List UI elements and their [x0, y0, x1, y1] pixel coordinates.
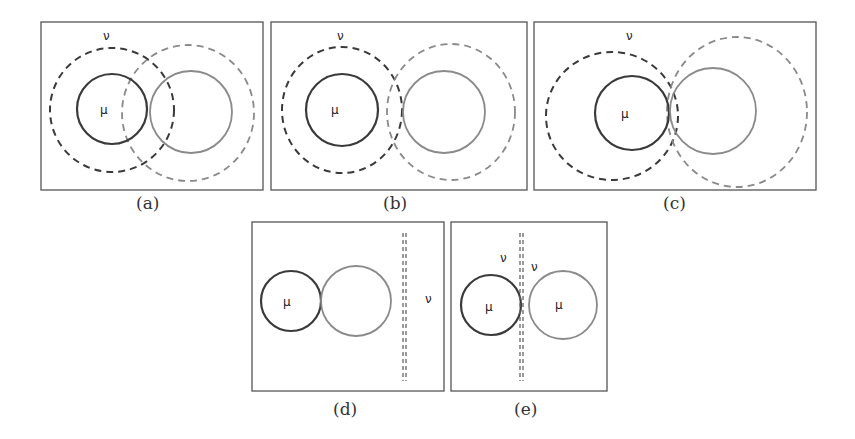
panel-a-nu-region-dark [50, 48, 174, 172]
panel-c: μ ν (c) [534, 22, 816, 213]
panel-b-other-circle [403, 71, 485, 153]
panel-a-other-circle [150, 71, 232, 153]
panel-c-nu-label: ν [626, 29, 633, 43]
panel-a-frame [41, 22, 263, 190]
panel-c-frame [534, 22, 816, 190]
panel-c-nu-region-dark [546, 52, 678, 180]
panel-d: μ ν (d) [252, 222, 444, 419]
panel-e-mu-circle-right [529, 271, 597, 339]
panel-e-nu-label-right: ν [531, 260, 538, 274]
panel-a-nu-region-light [122, 45, 254, 181]
panel-c-mu-label: μ [621, 107, 629, 121]
panel-b-nu-region-dark [282, 47, 402, 173]
panel-d-frame [252, 222, 444, 391]
panel-b-caption: (b) [383, 193, 407, 213]
panel-a-caption: (a) [136, 193, 159, 213]
panel-e-mu-label-left: μ [485, 300, 493, 314]
panel-b: μ ν (b) [271, 22, 527, 213]
panel-a: μ ν (a) [41, 22, 263, 213]
panel-a-mu-label: μ [100, 103, 108, 117]
panel-d-nu-label: ν [425, 292, 432, 306]
panel-e-nu-label-left: ν [500, 251, 507, 265]
panel-d-caption: (d) [333, 399, 357, 419]
panel-c-caption: (c) [663, 193, 686, 213]
panel-e: μ μ ν ν (e) [451, 222, 607, 419]
panel-c-nu-region-light [667, 37, 807, 187]
panel-d-mu-label: μ [283, 295, 291, 309]
panel-b-nu-region-light [387, 44, 515, 180]
panel-b-mu-circle [306, 74, 378, 146]
panel-d-other-circle [321, 266, 391, 336]
panel-c-other-circle [670, 68, 756, 154]
panel-a-nu-label: ν [103, 29, 110, 43]
panel-e-mu-label-right: μ [555, 298, 563, 312]
panel-b-nu-label: ν [337, 29, 344, 43]
panel-a-mu-circle [77, 74, 147, 144]
panel-d-mu-circle [261, 271, 321, 331]
panel-b-mu-label: μ [331, 103, 339, 117]
panel-e-caption: (e) [514, 399, 537, 419]
panel-b-frame [271, 22, 527, 190]
panel-c-mu-circle [595, 76, 669, 150]
figure-canvas: μ ν (a) μ ν (b) μ ν (c) μ ν (d) [0, 0, 855, 439]
